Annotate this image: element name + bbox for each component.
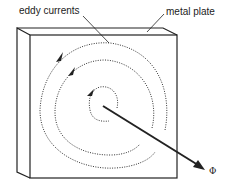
plate-side-face <box>17 28 30 178</box>
arrowhead-middle-icon <box>68 67 75 76</box>
arrowhead-inner-icon <box>87 89 94 96</box>
eddy-current-diagram <box>0 0 231 188</box>
arrowhead-outer-icon <box>56 52 63 62</box>
eddy-currents-label: eddy currents <box>19 5 80 16</box>
metal-plate-label: metal plate <box>166 6 215 17</box>
flux-arrowhead-icon <box>193 160 205 170</box>
flux-label: Φ <box>209 166 216 177</box>
metal-plate-leader-line <box>147 14 164 32</box>
eddy-currents-leader-line <box>83 16 109 43</box>
eddy-current-spiral-inner <box>89 87 117 121</box>
plate-top-face <box>17 28 177 35</box>
flux-arrow-shaft <box>103 106 198 165</box>
